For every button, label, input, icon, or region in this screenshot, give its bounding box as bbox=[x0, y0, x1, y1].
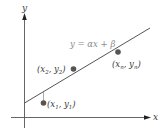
data-point-1-label: (x1, y1) bbox=[47, 99, 76, 110]
data-point-n bbox=[115, 49, 121, 55]
y-axis-arrowhead bbox=[22, 13, 27, 20]
x-axis-arrowhead bbox=[144, 115, 151, 120]
y-axis-label: y bbox=[21, 3, 28, 13]
data-point-n-label: (xn, yn) bbox=[112, 59, 141, 70]
data-point-2 bbox=[71, 66, 77, 72]
regression-equation: y = αx + β bbox=[69, 39, 115, 49]
data-point-2-label: (x2, y2) bbox=[37, 64, 66, 75]
data-point-1 bbox=[41, 100, 47, 106]
regression-diagram: y x y = αx + β (x1, y1) (x2, y2) (xn, yn… bbox=[0, 0, 165, 136]
x-axis-label: x bbox=[153, 112, 158, 122]
